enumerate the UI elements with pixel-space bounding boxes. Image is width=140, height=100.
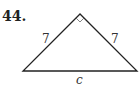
triangle-diagram: 7 7 c xyxy=(0,0,140,100)
hypotenuse-label: c xyxy=(76,73,83,87)
right-angle-marker-icon xyxy=(76,18,84,22)
right-leg-label: 7 xyxy=(111,32,119,46)
left-leg-label: 7 xyxy=(42,32,50,46)
